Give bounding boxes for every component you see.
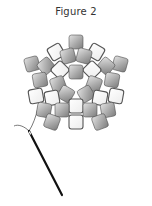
bead-group [23,35,128,131]
bead-gray [104,72,120,88]
bead-gray [55,103,69,117]
bead-white [108,88,124,104]
bead-white [69,99,83,113]
beadwork-diagram [0,0,152,206]
bead-gray [69,65,83,79]
bead-white [28,88,44,104]
needle-icon [29,131,62,195]
bead-white [69,115,83,129]
bead-gray [32,72,48,88]
bead-gray [69,35,83,49]
bead-gray [83,103,97,117]
